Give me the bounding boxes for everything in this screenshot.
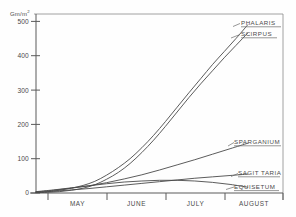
y-axis-title-superscript: 2 — [27, 9, 30, 14]
series-label-phalaris: PHALARIS — [241, 19, 276, 26]
y-tick-label-0: 0 — [25, 189, 29, 196]
line-chart-canvas: 500 400 300 200 100 0 Gm/m2 MAY JUNE JUL… — [0, 0, 296, 217]
series-line-sparganium — [36, 143, 248, 192]
series-label-equisetum: EQUISETUM — [234, 183, 275, 190]
y-tick-label-100: 100 — [17, 155, 29, 162]
y-tick-label-400: 400 — [17, 52, 29, 59]
y-tick-label-500: 500 — [17, 18, 29, 25]
x-tick-label-august: AUGUST — [239, 200, 269, 207]
x-tick-label-june: JUNE — [127, 200, 146, 207]
chart-figure: 500 400 300 200 100 0 Gm/m2 MAY JUNE JUL… — [0, 0, 296, 217]
y-tick-label-200: 200 — [17, 121, 29, 128]
series-label-sagittaria: SAGIT TARIA — [238, 169, 282, 176]
series-label-sparganium: SPARGANIUM — [234, 138, 280, 145]
y-tick-label-300: 300 — [17, 87, 29, 94]
x-tick-label-may: MAY — [70, 200, 85, 207]
series-line-scirpus — [36, 33, 248, 193]
x-tick-label-july: JULY — [187, 200, 205, 207]
series-label-scirpus: SCIRPUS — [241, 30, 272, 37]
leader-scirpus — [231, 35, 240, 39]
series-line-sagittaria — [36, 174, 248, 192]
leader-equisetum — [226, 187, 234, 190]
series-line-phalaris — [36, 25, 248, 192]
y-axis-title: Gm/m2 — [10, 9, 30, 16]
y-axis-title-text: Gm/m — [10, 11, 27, 17]
leader-phalaris — [233, 24, 240, 27]
